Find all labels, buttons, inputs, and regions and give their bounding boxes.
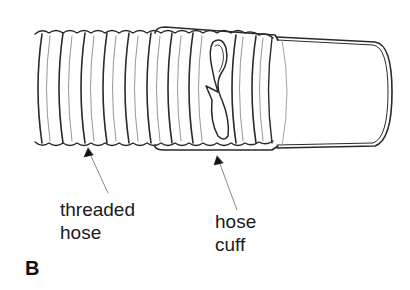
label-hose-cuff-line2: cuff: [215, 233, 256, 256]
thread-loop: [206, 40, 228, 139]
threaded-hose: [35, 31, 273, 146]
label-threaded-hose-line2: hose: [60, 221, 135, 244]
leader-threaded-hose: [84, 148, 108, 193]
leader-hose-cuff: [214, 156, 237, 210]
label-hose-cuff-line1: hose: [215, 210, 256, 233]
label-threaded-hose-line1: threaded: [60, 198, 135, 221]
hose-diagram: [0, 0, 410, 290]
pipe: [277, 37, 392, 148]
figure-letter: B: [25, 257, 39, 280]
label-hose-cuff: hose cuff: [215, 210, 256, 256]
label-threaded-hose: threaded hose: [60, 198, 135, 244]
